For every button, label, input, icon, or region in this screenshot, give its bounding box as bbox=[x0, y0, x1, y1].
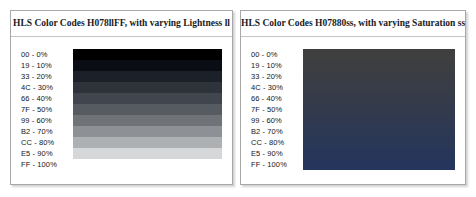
saturation-color-swatch bbox=[303, 71, 455, 82]
saturation-color-swatch bbox=[303, 49, 455, 60]
lightness-color-swatch bbox=[73, 137, 222, 148]
lightness-row-label: CC - 80% bbox=[21, 137, 73, 148]
lightness-panel-body: 00 - 0% 19 - 10% 33 - 20% 4C - 30% 66 - … bbox=[11, 37, 232, 184]
table-row: 99 - 60% bbox=[21, 115, 222, 126]
saturation-color-swatch bbox=[303, 137, 455, 148]
table-row: CC - 80% bbox=[21, 137, 222, 148]
lightness-row-label: 66 - 40% bbox=[21, 93, 73, 104]
saturation-color-swatch bbox=[303, 115, 455, 126]
table-row: 33 - 20% bbox=[21, 71, 222, 82]
screenshot-canvas: HLS Color Codes H078llFF, with varying L… bbox=[0, 0, 476, 197]
lightness-color-swatch bbox=[73, 93, 222, 104]
table-row: 99 - 60% bbox=[251, 115, 455, 126]
saturation-color-swatch bbox=[303, 159, 455, 170]
lightness-color-swatch bbox=[73, 71, 222, 82]
saturation-panel: HLS Color Codes H07880ss, with varying S… bbox=[240, 10, 466, 185]
table-row: 00 - 0% bbox=[21, 49, 222, 60]
saturation-color-swatch bbox=[303, 126, 455, 137]
lightness-row-label: 19 - 10% bbox=[21, 60, 73, 71]
saturation-color-swatch bbox=[303, 93, 455, 104]
saturation-color-swatch bbox=[303, 82, 455, 93]
table-row: 4C - 30% bbox=[251, 82, 455, 93]
saturation-row-label: CC - 80% bbox=[251, 137, 303, 148]
lightness-color-swatch bbox=[73, 115, 222, 126]
saturation-row-list: 00 - 0% 19 - 10% 33 - 20% 4C - 30% 66 - … bbox=[251, 49, 455, 170]
lightness-color-swatch bbox=[73, 148, 222, 159]
lightness-panel-title: HLS Color Codes H078llFF, with varying L… bbox=[11, 11, 232, 37]
saturation-color-swatch bbox=[303, 104, 455, 115]
table-row: B2 - 70% bbox=[251, 126, 455, 137]
saturation-row-label: 7F - 50% bbox=[251, 104, 303, 115]
lightness-color-swatch bbox=[73, 49, 222, 60]
saturation-row-label: 4C - 30% bbox=[251, 82, 303, 93]
lightness-row-label: B2 - 70% bbox=[21, 126, 73, 137]
lightness-row-label: 4C - 30% bbox=[21, 82, 73, 93]
saturation-panel-title: HLS Color Codes H07880ss, with varying S… bbox=[241, 11, 465, 37]
saturation-color-swatch bbox=[303, 148, 455, 159]
table-row: 00 - 0% bbox=[251, 49, 455, 60]
table-row: 4C - 30% bbox=[21, 82, 222, 93]
saturation-color-swatch bbox=[303, 60, 455, 71]
table-row: FF - 100% bbox=[21, 159, 222, 170]
saturation-panel-body: 00 - 0% 19 - 10% 33 - 20% 4C - 30% 66 - … bbox=[241, 37, 465, 184]
lightness-row-label: E5 - 90% bbox=[21, 148, 73, 159]
table-row: 33 - 20% bbox=[251, 71, 455, 82]
table-row: FF - 100% bbox=[251, 159, 455, 170]
lightness-color-swatch bbox=[73, 159, 222, 170]
lightness-row-label: FF - 100% bbox=[21, 159, 73, 170]
saturation-row-label: 19 - 10% bbox=[251, 60, 303, 71]
table-row: CC - 80% bbox=[251, 137, 455, 148]
lightness-row-label: 00 - 0% bbox=[21, 49, 73, 60]
saturation-row-label: 00 - 0% bbox=[251, 49, 303, 60]
table-row: 66 - 40% bbox=[251, 93, 455, 104]
lightness-color-swatch bbox=[73, 126, 222, 137]
lightness-color-swatch bbox=[73, 82, 222, 93]
saturation-row-label: E5 - 90% bbox=[251, 148, 303, 159]
table-row: B2 - 70% bbox=[21, 126, 222, 137]
table-row: 7F - 50% bbox=[21, 104, 222, 115]
lightness-row-label: 99 - 60% bbox=[21, 115, 73, 126]
lightness-row-label: 33 - 20% bbox=[21, 71, 73, 82]
lightness-color-swatch bbox=[73, 104, 222, 115]
saturation-row-label: FF - 100% bbox=[251, 159, 303, 170]
lightness-color-swatch bbox=[73, 60, 222, 71]
saturation-row-label: B2 - 70% bbox=[251, 126, 303, 137]
saturation-row-label: 99 - 60% bbox=[251, 115, 303, 126]
lightness-row-label: 7F - 50% bbox=[21, 104, 73, 115]
lightness-panel: HLS Color Codes H078llFF, with varying L… bbox=[10, 10, 233, 185]
saturation-row-label: 66 - 40% bbox=[251, 93, 303, 104]
table-row: 19 - 10% bbox=[21, 60, 222, 71]
table-row: 19 - 10% bbox=[251, 60, 455, 71]
table-row: E5 - 90% bbox=[21, 148, 222, 159]
lightness-row-list: 00 - 0% 19 - 10% 33 - 20% 4C - 30% 66 - … bbox=[21, 49, 222, 170]
saturation-row-label: 33 - 20% bbox=[251, 71, 303, 82]
table-row: E5 - 90% bbox=[251, 148, 455, 159]
table-row: 66 - 40% bbox=[21, 93, 222, 104]
table-row: 7F - 50% bbox=[251, 104, 455, 115]
